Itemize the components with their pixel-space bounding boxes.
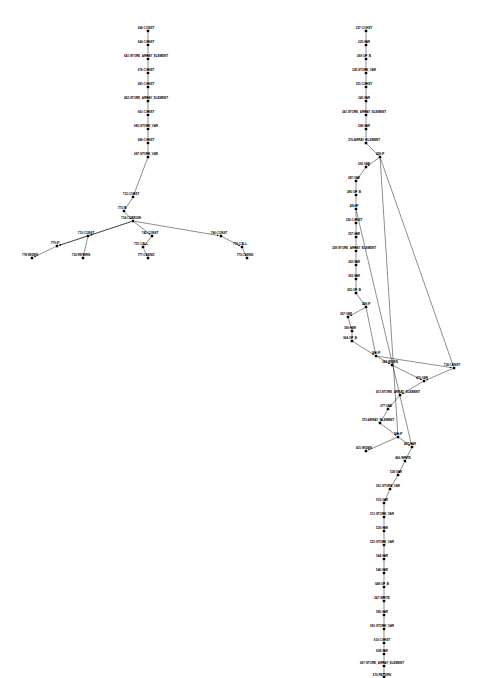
graph-node-label: 362:VAR: [348, 260, 361, 264]
labels-layer: 646:CONST640:CONST641:STORE_ARRAY_ELEMEN…: [22, 26, 460, 677]
graph-node-label: 342:VAR: [358, 96, 371, 100]
graph-node-label: 411:STORE_ARRAY_ELEMENT: [376, 390, 420, 394]
graph-node-label: 364:OP_B: [343, 336, 358, 340]
graph-node-label: 775:CGEND: [237, 253, 255, 257]
graph-node-label: 410:VAR: [416, 376, 429, 380]
graph-node-label: 681:CONST: [138, 82, 155, 86]
graph-node-label: 776:CALL: [233, 242, 247, 246]
graph-node-label: 641:STORE_ARRAY_ELEMENT: [124, 54, 168, 58]
graph-node-label: 687:STORE_VAR: [134, 152, 159, 156]
graph-node-label: 336:CONST: [346, 218, 363, 222]
graph-node-label: 298:VAR: [358, 124, 371, 128]
graph-node-label: 751:CALL: [134, 242, 148, 246]
graph-node-label: 670:RETURN: [373, 673, 391, 677]
graph-canvas: 646:CONST640:CONST641:STORE_ARRAY_ELEMEN…: [0, 0, 484, 678]
edges-layer: [34, 33, 453, 675]
graph-node-label: 399:IF: [394, 432, 403, 436]
graph-node-label: 286:OP_B: [347, 190, 362, 194]
graph-node-label: 369:IF: [372, 351, 381, 355]
graph-node-label: 686:CONST: [138, 138, 155, 142]
graph-node-label: 773:IF: [118, 206, 127, 210]
graph-node-label: 713:CONST: [78, 231, 95, 235]
graph-node-label: 732:RETURN: [72, 253, 90, 257]
graph-node-label: 779:IF: [51, 241, 60, 245]
graph-node-label: 608:VAR: [376, 649, 389, 653]
graph-node-label: 287:VAR: [348, 176, 361, 180]
graph-node-label: 426:IF: [350, 204, 359, 208]
graph-edge: [59, 222, 131, 246]
graph-node-label: 682:STORE_ARRAY_ELEMENT: [124, 96, 168, 100]
graph-node-label: 581:STORE_VAR: [370, 624, 395, 628]
graph-node-label: 529:VAR: [390, 470, 403, 474]
graph-node-label: 714:CGBEGIN: [121, 216, 141, 220]
graph-node-label: 680:STORE_VAR: [134, 124, 159, 128]
graph-edge: [134, 159, 148, 195]
graph-node-label: 778:WIDEN: [22, 253, 38, 257]
graph-node-label: 299:OP_B: [357, 54, 372, 58]
graph-node-label: 365:OP_B: [347, 288, 362, 292]
graph-node-label: 227:CONST: [356, 26, 373, 30]
graph-node-label: 718:CONST: [444, 363, 461, 367]
graph-node-label: 580:VAR: [376, 610, 389, 614]
graph-node-label: 561:STORE_VAR: [376, 484, 401, 488]
graph-node-label: 358:IF: [362, 302, 371, 306]
graph-node-label: 676:CONST: [138, 68, 155, 72]
graph-node-label: 546:VAR: [376, 568, 389, 572]
graph-node-label: 712:CONST: [123, 192, 140, 196]
graph-edge: [125, 198, 132, 209]
graph-node-label: 766:CONST: [211, 231, 228, 235]
graph-node-label: 610:CONST: [374, 638, 391, 642]
graph-edge: [368, 438, 396, 450]
graph-node-label: 341:STORE_ARRAY_ELEMENT: [342, 110, 386, 114]
graph-node-label: 661:CONST: [138, 110, 155, 114]
graph-node-label: 239:VAR: [358, 40, 371, 44]
graph-node-label: 667:STORE_ARRAY_ELEMENT: [360, 661, 404, 665]
graph-node-label: 466:WRITE: [395, 456, 411, 460]
graph-edge: [426, 369, 452, 380]
graph-node-label: 467:VAR: [404, 442, 417, 446]
graph-node-label: 431:WIDEN: [356, 446, 372, 450]
graph-node-label: 328:IF: [376, 152, 385, 156]
graph-node-label: 539:VAR: [376, 526, 389, 530]
graph-node-label: 363:VAR: [348, 274, 361, 278]
graph-node-label: 640:CONST: [138, 40, 155, 44]
graph-edge: [350, 308, 365, 316]
graph-node-label: 338:STORE_VAR: [352, 68, 377, 72]
graph-node-label: 276:ARRAY_ELEMENT: [348, 138, 380, 142]
graph-node-label: 777:CGEND: [138, 253, 156, 257]
graph-node-label: 544:VAR: [376, 554, 389, 558]
graph-node-label: 372:ARRAY_ELEMENT: [362, 418, 394, 422]
graph-node-label: 377:VAR: [380, 404, 393, 408]
graph-node-label: 511:STORE_VAR: [370, 512, 395, 516]
graph-node-label: 351:CONST: [356, 82, 373, 86]
nodes-layer: [31, 30, 456, 678]
graph-node-label: 343:WIDEN: [382, 360, 398, 364]
graph-edge: [366, 309, 375, 354]
graph-node-label: 328:STORE_ARRAY_ELEMENT: [332, 246, 376, 250]
graph-node-label: 357:VAR: [348, 232, 361, 236]
graph-node-label: 742:CONST: [142, 231, 159, 235]
graph-node-label: 515:VAR: [376, 498, 389, 502]
graph-node-label: 292:VAR: [358, 162, 371, 166]
graph-svg: 646:CONST640:CONST641:STORE_ARRAY_ELEMEN…: [0, 0, 484, 678]
graph-node-label: 521:STORE_VAR: [370, 540, 395, 544]
graph-node-label: 360:VAR: [344, 326, 357, 330]
graph-node-label: 646:CONST: [138, 26, 155, 30]
graph-node-label: 547:WRITE: [374, 596, 390, 600]
graph-node-label: 548:OP_B: [375, 582, 390, 586]
graph-node-label: 367:VAR: [340, 312, 353, 316]
